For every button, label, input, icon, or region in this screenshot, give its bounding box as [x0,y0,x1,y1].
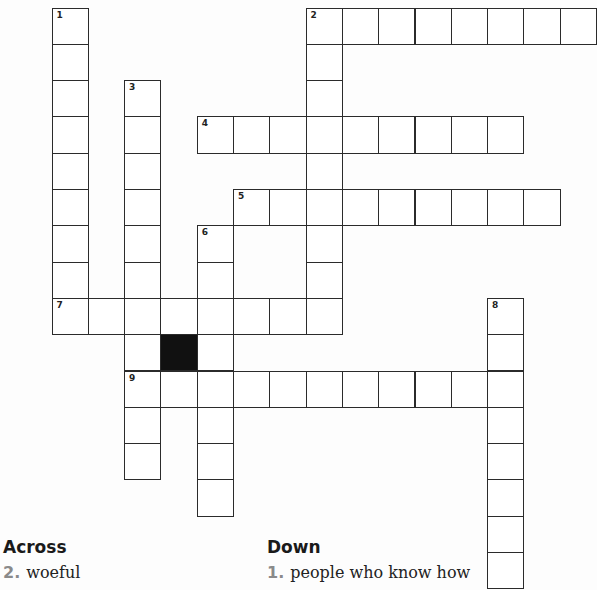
cell-input[interactable] [161,372,196,407]
grid-cell[interactable] [451,371,488,408]
cell-input[interactable] [488,408,523,443]
cell-input[interactable] [125,372,160,407]
cell-input[interactable] [125,190,160,225]
grid-cell[interactable] [451,116,488,153]
cell-input[interactable] [89,299,124,334]
grid-cell[interactable] [124,116,161,153]
grid-cell[interactable]: 6 [197,225,234,262]
cell-input[interactable] [307,190,342,225]
cell-input[interactable] [53,263,88,298]
cell-input[interactable] [161,299,196,334]
grid-cell[interactable] [197,298,234,335]
grid-cell[interactable]: 2 [306,8,343,45]
grid-cell[interactable] [306,80,343,117]
cell-input[interactable] [488,517,523,552]
cell-input[interactable] [343,190,378,225]
grid-cell[interactable]: 5 [233,189,270,226]
cell-input[interactable] [198,372,233,407]
cell-input[interactable] [198,263,233,298]
grid-cell[interactable] [306,153,343,190]
cell-input[interactable] [524,190,559,225]
grid-cell[interactable] [124,189,161,226]
grid-cell[interactable] [523,8,560,45]
grid-cell[interactable] [306,262,343,299]
cell-input[interactable] [234,372,269,407]
cell-input[interactable] [53,9,88,44]
grid-cell[interactable] [342,116,379,153]
cell-input[interactable] [488,190,523,225]
cell-input[interactable] [307,154,342,189]
cell-input[interactable] [270,299,305,334]
cell-input[interactable] [307,81,342,116]
grid-cell[interactable]: 4 [197,116,234,153]
cell-input[interactable] [379,9,414,44]
grid-cell[interactable] [487,479,524,516]
cell-input[interactable] [198,335,233,370]
cell-input[interactable] [270,117,305,152]
grid-cell[interactable] [197,479,234,516]
cell-input[interactable] [53,299,88,334]
cell-input[interactable] [379,190,414,225]
cell-input[interactable] [307,45,342,80]
cell-input[interactable] [125,263,160,298]
grid-cell[interactable] [52,225,89,262]
cell-input[interactable] [270,372,305,407]
cell-input[interactable] [488,9,523,44]
grid-cell[interactable] [306,371,343,408]
grid-cell[interactable] [415,189,452,226]
grid-cell[interactable] [560,8,597,45]
grid-cell[interactable] [342,8,379,45]
grid-cell[interactable] [269,371,306,408]
cell-input[interactable] [416,117,451,152]
cell-input[interactable] [198,226,233,261]
grid-cell[interactable] [52,44,89,81]
grid-cell[interactable] [342,371,379,408]
grid-cell[interactable] [378,189,415,226]
cell-input[interactable] [452,190,487,225]
grid-cell[interactable] [487,407,524,444]
cell-input[interactable] [379,372,414,407]
cell-input[interactable] [234,190,269,225]
grid-cell[interactable] [269,298,306,335]
grid-cell[interactable] [197,371,234,408]
grid-cell[interactable] [269,189,306,226]
grid-cell[interactable] [197,334,234,371]
grid-cell[interactable] [487,116,524,153]
cell-input[interactable] [125,81,160,116]
grid-cell[interactable] [306,116,343,153]
grid-cell[interactable] [233,298,270,335]
grid-cell[interactable] [415,116,452,153]
cell-input[interactable] [488,444,523,479]
grid-cell[interactable] [487,552,524,589]
grid-cell[interactable]: 7 [52,298,89,335]
cell-input[interactable] [198,299,233,334]
cell-input[interactable] [343,9,378,44]
cell-input[interactable] [198,408,233,443]
grid-cell[interactable] [160,298,197,335]
grid-cell[interactable] [415,371,452,408]
grid-cell[interactable] [197,262,234,299]
grid-cell[interactable] [197,443,234,480]
grid-cell[interactable] [487,516,524,553]
grid-cell[interactable] [306,44,343,81]
grid-cell[interactable] [52,189,89,226]
cell-input[interactable] [125,408,160,443]
cell-input[interactable] [452,117,487,152]
grid-cell[interactable] [52,80,89,117]
grid-cell[interactable] [233,371,270,408]
grid-cell[interactable] [160,371,197,408]
grid-cell[interactable] [487,8,524,45]
cell-input[interactable] [416,190,451,225]
cell-input[interactable] [125,299,160,334]
cell-input[interactable] [488,372,523,407]
grid-cell[interactable] [342,189,379,226]
cell-input[interactable] [307,299,342,334]
cell-input[interactable] [307,372,342,407]
grid-cell[interactable] [487,371,524,408]
cell-input[interactable] [53,190,88,225]
cell-input[interactable] [53,226,88,261]
grid-cell[interactable] [124,334,161,371]
grid-cell[interactable] [124,407,161,444]
cell-input[interactable] [125,444,160,479]
cell-input[interactable] [452,9,487,44]
